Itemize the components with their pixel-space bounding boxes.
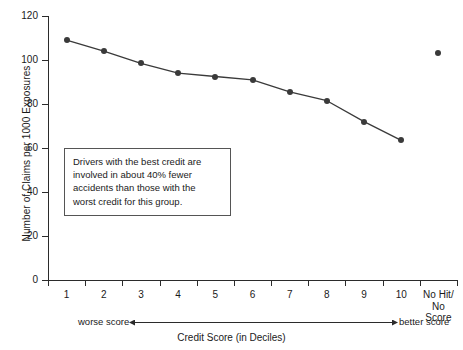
annotation-callout: Drivers with the best credit are involve… bbox=[64, 148, 231, 216]
x-tick-mark bbox=[122, 280, 123, 286]
y-tick-mark bbox=[42, 16, 48, 17]
x-tick-mark bbox=[85, 280, 86, 286]
x-tick-label: 6 bbox=[234, 289, 271, 301]
x-tick-label: 4 bbox=[160, 289, 197, 301]
x-tick-mark bbox=[345, 280, 346, 286]
data-point-marker bbox=[361, 119, 367, 125]
x-tick-label: 10 bbox=[383, 289, 420, 301]
data-point-marker bbox=[324, 98, 330, 104]
y-axis-line bbox=[48, 16, 49, 281]
annotation-line-2: involved in about 40% fewer bbox=[73, 168, 223, 181]
x-axis-line bbox=[48, 280, 458, 281]
data-point-marker bbox=[250, 77, 256, 83]
credit-score-claims-chart: Number of Claims per 1000 Exposures 0204… bbox=[0, 0, 463, 350]
x-tick-mark bbox=[271, 280, 272, 286]
x-tick-mark bbox=[197, 280, 198, 286]
y-tick-label: 60 bbox=[0, 143, 38, 153]
data-point-marker bbox=[175, 70, 181, 76]
data-point-marker bbox=[64, 37, 70, 43]
y-tick-mark bbox=[42, 60, 48, 61]
y-tick-mark bbox=[42, 192, 48, 193]
y-tick-label: 0 bbox=[0, 275, 38, 285]
data-point-marker bbox=[435, 50, 441, 56]
y-tick-label: 100 bbox=[0, 55, 38, 65]
x-tick-mark bbox=[383, 280, 384, 286]
x-tick-label: 3 bbox=[122, 289, 159, 301]
x-tick-label: 7 bbox=[271, 289, 308, 301]
annotation-line-1: Drivers with the best credit are bbox=[73, 155, 223, 168]
data-point-marker bbox=[101, 48, 107, 54]
x-tick-mark bbox=[234, 280, 235, 286]
y-tick-label: 40 bbox=[0, 187, 38, 197]
y-tick-mark bbox=[42, 148, 48, 149]
data-point-marker bbox=[398, 137, 404, 143]
x-tick-label: 8 bbox=[308, 289, 345, 301]
direction-double-arrow-icon bbox=[0, 316, 463, 330]
direction-scale: worse score better score bbox=[0, 316, 463, 330]
x-tick-label: 2 bbox=[85, 289, 122, 301]
x-tick-label: 5 bbox=[197, 289, 234, 301]
x-tick-mark bbox=[420, 280, 421, 286]
x-tick-label: 9 bbox=[345, 289, 382, 301]
x-tick-label: 1 bbox=[48, 289, 85, 301]
y-tick-label: 80 bbox=[0, 99, 38, 109]
x-axis-title: Credit Score (in Deciles) bbox=[0, 332, 463, 343]
x-tick-mark bbox=[308, 280, 309, 286]
x-tick-mark bbox=[457, 280, 458, 286]
x-tick-mark bbox=[48, 280, 49, 286]
data-point-marker bbox=[212, 74, 218, 80]
data-point-marker bbox=[287, 89, 293, 95]
annotation-line-3: accidents than those with the bbox=[73, 181, 223, 194]
y-tick-label: 20 bbox=[0, 231, 38, 241]
x-tick-mark bbox=[160, 280, 161, 286]
y-tick-mark bbox=[42, 236, 48, 237]
y-tick-mark bbox=[42, 104, 48, 105]
annotation-line-4: worst credit for this group. bbox=[73, 195, 223, 208]
data-point-marker bbox=[138, 60, 144, 66]
y-tick-label: 120 bbox=[0, 11, 38, 21]
